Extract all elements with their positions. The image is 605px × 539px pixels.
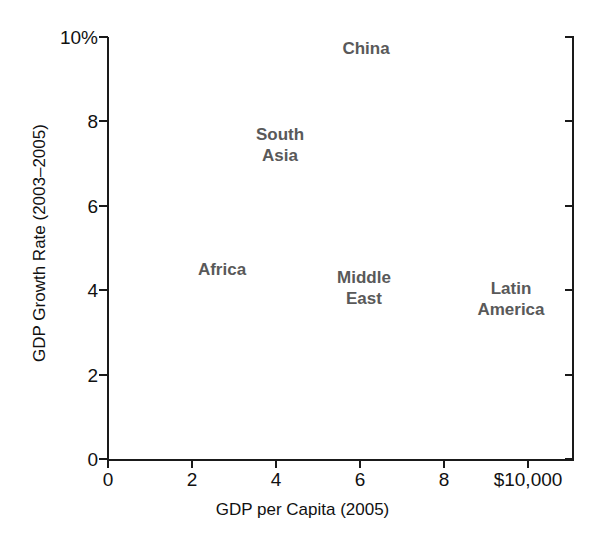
right-axis-tick-mark (565, 120, 574, 122)
x-axis-tick-label: $10,000 (468, 470, 588, 489)
right-axis-tick-mark (565, 458, 574, 460)
y-axis-title: GDP Growth Rate (2003–2005) (29, 31, 51, 455)
data-point-label: Latin America (411, 278, 605, 320)
right-axis-tick-mark (565, 205, 574, 207)
y-axis-tick-label: 0 (8, 450, 98, 469)
x-axis-tick-mark (107, 459, 109, 468)
x-axis-tick-mark (527, 459, 529, 468)
y-axis-tick-mark (99, 374, 108, 376)
y-axis-tick-label: 4 (8, 281, 98, 300)
x-axis-spine (107, 459, 574, 461)
right-axis-tick-mark (565, 374, 574, 376)
x-axis-tick-mark (359, 459, 361, 468)
x-axis-tick-mark (443, 459, 445, 468)
y-axis-tick-label: 8 (8, 112, 98, 131)
y-axis-title-container: GDP Growth Rate (2003–2005) (29, 31, 51, 455)
x-axis-tick-mark (191, 459, 193, 468)
x-axis-tick-mark (275, 459, 277, 468)
x-axis-title: GDP per Capita (2005) (0, 500, 605, 520)
y-axis-tick-label: 6 (8, 197, 98, 216)
y-axis-spine (107, 37, 109, 461)
right-axis-spine (572, 37, 574, 461)
y-axis-tick-label: 10% (8, 28, 98, 47)
y-axis-tick-mark (99, 289, 108, 291)
y-axis-tick-mark (99, 120, 108, 122)
scatter-chart-figure: 0246810% 02468$10,000 ChinaSouth AsiaAfr… (0, 0, 605, 539)
right-axis-tick-mark (565, 36, 574, 38)
data-point-label: China (266, 38, 466, 59)
y-axis-tick-mark (99, 36, 108, 38)
y-axis-tick-label: 2 (8, 366, 98, 385)
y-axis-tick-mark (99, 205, 108, 207)
data-point-label: South Asia (180, 124, 380, 166)
